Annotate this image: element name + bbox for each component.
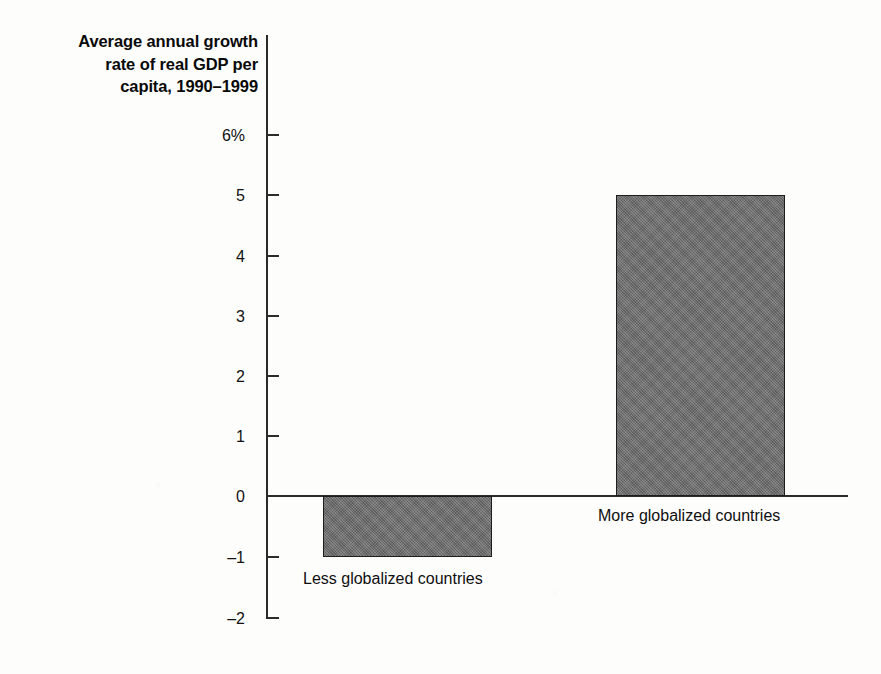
y-tick-label-6: 6% [165,128,245,144]
y-tick-minus-2 [268,617,279,619]
y-tick-label-5: 5 [165,188,245,204]
category-label-more-globalized: More globalized countries [598,508,780,524]
y-tick-label-minus-1: –1 [165,550,245,566]
bar-more-globalized-countries [616,195,785,496]
y-tick-minus-1 [268,556,279,558]
y-axis-title-line-1: Average annual growth [18,30,258,53]
bar-chart: Average annual growth rate of real GDP p… [0,0,881,674]
y-tick-1 [268,435,279,437]
category-label-less-globalized: Less globalized countries [303,571,483,587]
y-tick-label-2: 2 [165,369,245,385]
y-axis-line [266,35,268,619]
y-tick-label-0: 0 [165,489,245,505]
y-tick-label-4: 4 [165,249,245,265]
bar-less-globalized-countries [323,496,492,557]
y-tick-label-3: 3 [165,309,245,325]
y-tick-3 [268,315,279,317]
y-axis-title-line-2: rate of real GDP per [18,53,258,76]
y-tick-label-minus-2: –2 [165,611,245,627]
y-tick-4 [268,255,279,257]
y-tick-6 [268,134,279,136]
y-tick-5 [268,194,279,196]
y-tick-label-1: 1 [165,429,245,445]
y-axis-title-line-3: capita, 1990–1999 [18,75,258,98]
y-axis-title: Average annual growth rate of real GDP p… [18,30,258,98]
y-tick-2 [268,375,279,377]
